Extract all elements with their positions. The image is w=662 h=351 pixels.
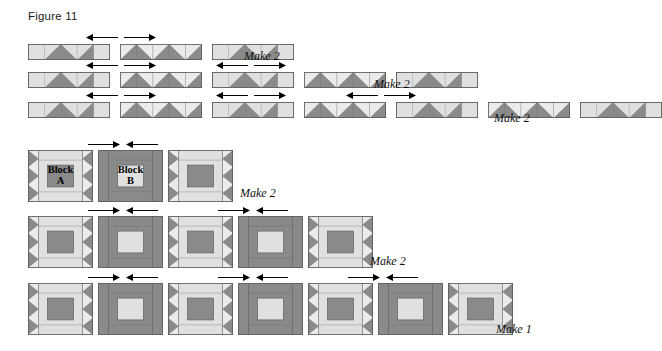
seam-arrow-right xyxy=(348,273,380,282)
sawtooth-segment-light xyxy=(580,102,662,118)
quilt-block-b xyxy=(378,283,443,335)
quilt-block-a xyxy=(28,283,93,335)
seam-arrow-left xyxy=(126,273,158,282)
make-label-block-row-3: Make 1 xyxy=(496,322,532,337)
seam-arrow-left xyxy=(256,273,288,282)
quilt-block-b xyxy=(238,283,303,335)
quilt-block-a xyxy=(308,283,373,335)
seam-arrow-right xyxy=(88,273,120,282)
seam-arrow-left xyxy=(386,273,418,282)
seam-arrow-right xyxy=(218,273,250,282)
quilt-block-b xyxy=(98,283,163,335)
quilt-block-a xyxy=(168,283,233,335)
